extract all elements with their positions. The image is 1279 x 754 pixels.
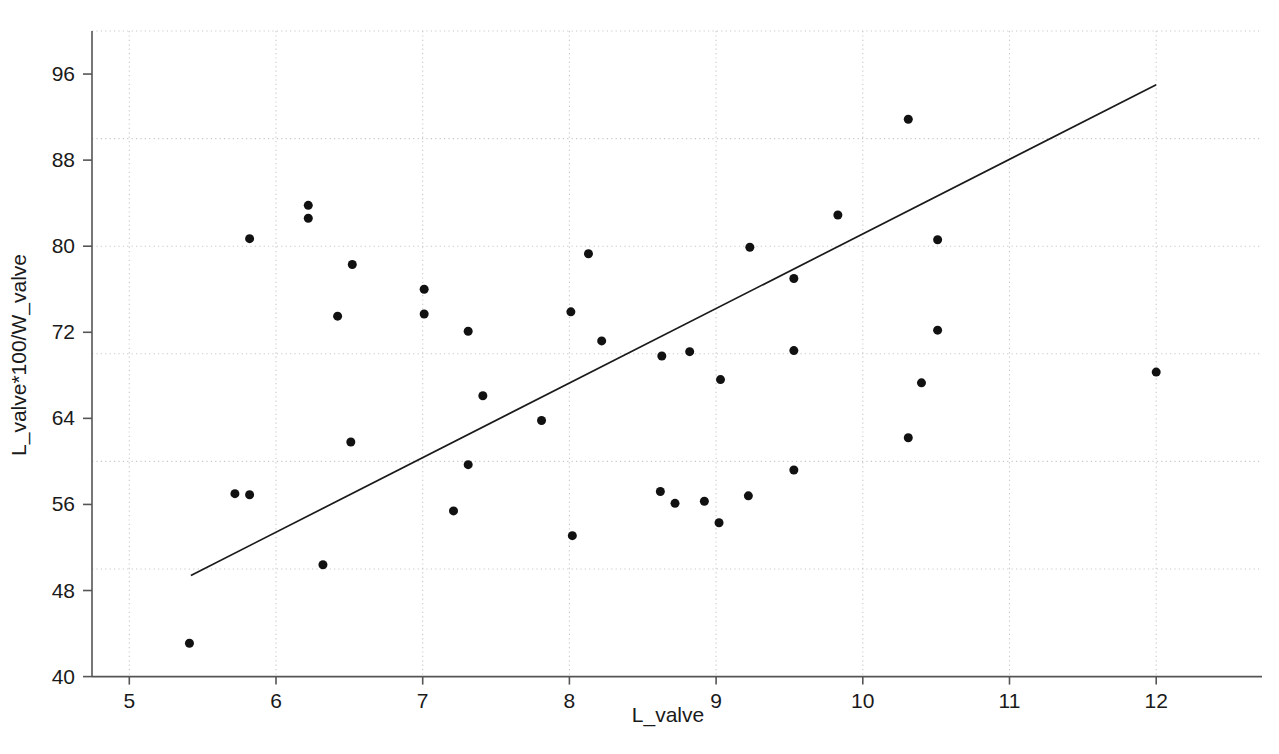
- y-tick-label: 48: [52, 579, 75, 602]
- data-point: [449, 506, 458, 515]
- data-point: [833, 210, 842, 219]
- data-point: [420, 285, 429, 294]
- data-point: [333, 312, 342, 321]
- data-point: [700, 497, 709, 506]
- data-point: [478, 391, 487, 400]
- data-point: [464, 327, 473, 336]
- x-tick-label: 7: [417, 689, 429, 712]
- data-point: [318, 560, 327, 569]
- data-point: [744, 491, 753, 500]
- data-point: [245, 234, 254, 243]
- scatter-plot-figure: 56789101112 4048566472808896 L_valve L_v…: [0, 0, 1279, 754]
- data-point: [230, 489, 239, 498]
- x-tick-label: 6: [270, 689, 282, 712]
- data-point: [657, 351, 666, 360]
- data-point: [346, 438, 355, 447]
- y-tick-label: 72: [52, 320, 75, 343]
- data-point: [789, 274, 798, 283]
- y-tick-label: 96: [52, 62, 75, 85]
- data-point: [904, 433, 913, 442]
- data-point: [716, 375, 725, 384]
- y-tick-label: 64: [52, 406, 76, 429]
- data-point: [671, 499, 680, 508]
- data-point: [185, 639, 194, 648]
- x-tick-label: 11: [999, 689, 1021, 712]
- data-point: [584, 249, 593, 258]
- data-point: [789, 346, 798, 355]
- data-point: [597, 336, 606, 345]
- data-point: [568, 531, 577, 540]
- data-point: [464, 460, 473, 469]
- data-point: [685, 347, 694, 356]
- plot-canvas: 56789101112 4048566472808896 L_valve L_v…: [0, 0, 1279, 754]
- data-point: [420, 309, 429, 318]
- data-point: [789, 466, 798, 475]
- y-tick-label: 80: [52, 234, 75, 257]
- y-tick-label: 56: [52, 492, 75, 515]
- x-tick-label: 10: [851, 689, 874, 712]
- data-point: [566, 307, 575, 316]
- x-tick-label: 9: [710, 689, 722, 712]
- data-point: [656, 487, 665, 496]
- data-point: [537, 416, 546, 425]
- y-tick-label: 40: [52, 665, 75, 688]
- data-point: [745, 243, 754, 252]
- data-point: [917, 378, 926, 387]
- x-axis-title: L_valve: [632, 703, 704, 727]
- data-point: [1152, 368, 1161, 377]
- data-point: [304, 201, 313, 210]
- x-tick-label: 5: [123, 689, 135, 712]
- data-point: [304, 214, 313, 223]
- data-point: [933, 326, 942, 335]
- x-tick-label: 12: [1145, 689, 1168, 712]
- y-axis-title: L_valve*100/W_valve: [7, 254, 31, 456]
- data-point: [348, 260, 357, 269]
- y-tick-label: 88: [52, 148, 75, 171]
- x-tick-label: 8: [564, 689, 576, 712]
- data-point: [245, 490, 254, 499]
- data-point: [715, 518, 724, 527]
- data-point: [933, 235, 942, 244]
- data-point: [904, 115, 913, 124]
